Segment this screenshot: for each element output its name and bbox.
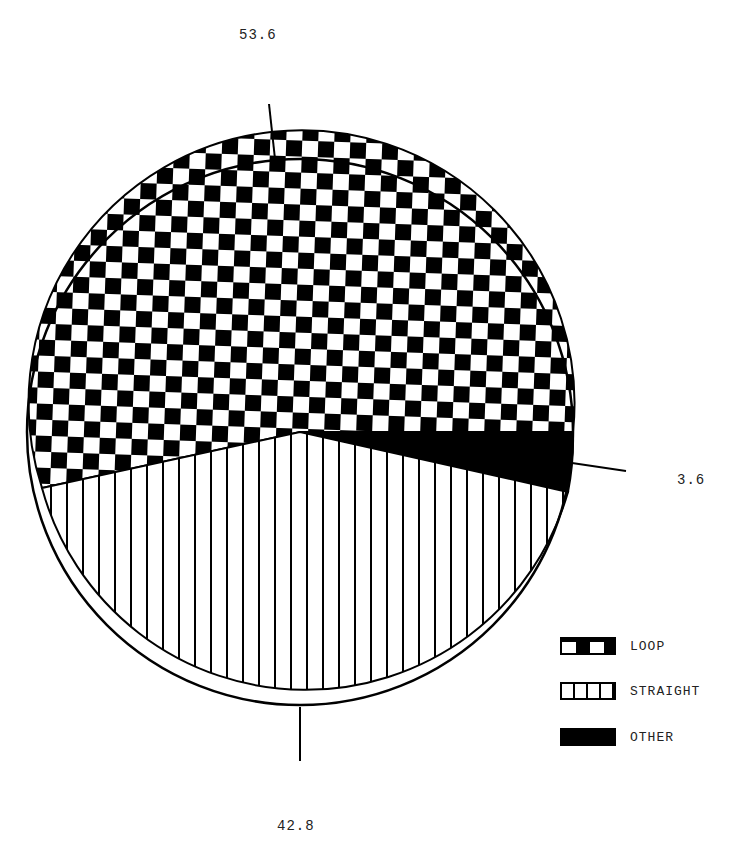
data-label-other: 3.6 bbox=[677, 472, 705, 488]
leader-line-other bbox=[572, 463, 626, 471]
data-label-loop: 53.6 bbox=[239, 27, 277, 43]
legend-swatch-loop bbox=[560, 637, 616, 655]
legend-label: OTHER bbox=[630, 730, 674, 745]
legend-swatch-straight bbox=[560, 682, 616, 700]
legend-item-straight: STRAIGHT bbox=[560, 682, 700, 700]
legend-swatch-other bbox=[560, 728, 616, 746]
legend-item-loop: LOOP bbox=[560, 637, 665, 655]
legend-label: LOOP bbox=[630, 639, 665, 654]
data-label-straight: 42.8 bbox=[277, 818, 315, 834]
legend-label: STRAIGHT bbox=[630, 684, 700, 699]
legend-item-other: OTHER bbox=[560, 728, 674, 746]
